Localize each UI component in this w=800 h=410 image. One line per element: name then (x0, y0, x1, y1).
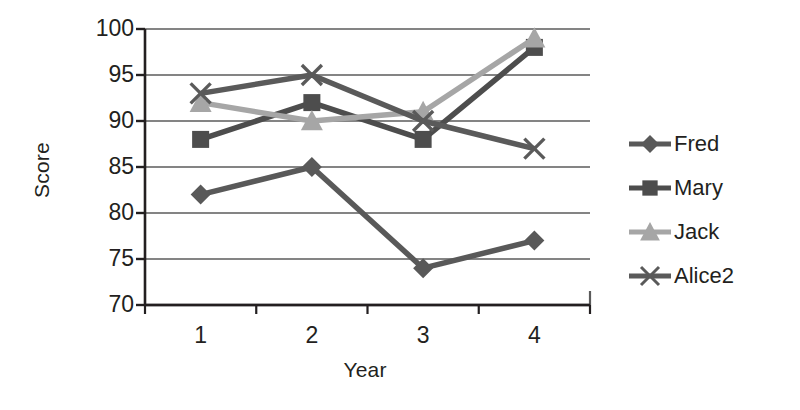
legend-marker-triangle (628, 220, 672, 244)
series-fred (191, 157, 545, 278)
legend-item-alice2[interactable]: Alice2 (628, 254, 798, 298)
series-mary (192, 39, 543, 148)
square-marker (192, 131, 209, 148)
series-line (201, 167, 535, 268)
legend-label: Alice2 (674, 263, 734, 289)
legend-item-fred[interactable]: Fred (628, 122, 798, 166)
legend-label: Mary (674, 175, 723, 201)
legend-marker-square (628, 176, 672, 200)
series-jack (190, 27, 546, 130)
line-chart: Score 100959085807570 1234 Year FredMary… (0, 0, 800, 410)
legend-label: Jack (674, 219, 719, 245)
chart-legend: FredMaryJackAlice2 (628, 122, 798, 298)
square-marker (303, 94, 320, 111)
legend-item-mary[interactable]: Mary (628, 166, 798, 210)
square-marker (415, 131, 432, 148)
axis-ticks (136, 29, 590, 314)
series-line (201, 38, 535, 121)
series-line (201, 47, 535, 139)
legend-item-jack[interactable]: Jack (628, 210, 798, 254)
legend-label: Fred (674, 131, 719, 157)
data-series-group (190, 27, 546, 278)
gridlines (145, 29, 590, 305)
diamond-marker (191, 185, 211, 205)
square-marker (642, 180, 657, 195)
diamond-marker (641, 135, 659, 153)
legend-marker-cross (628, 264, 672, 288)
diamond-marker (524, 231, 544, 251)
triangle-marker (523, 27, 545, 47)
legend-marker-diamond (628, 132, 672, 156)
